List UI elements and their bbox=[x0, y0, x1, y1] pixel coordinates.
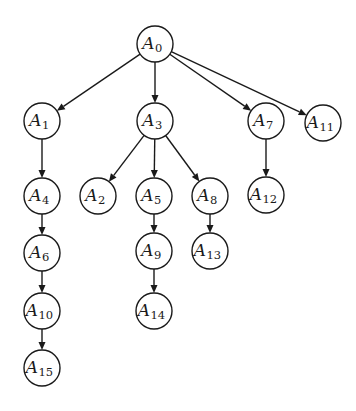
node-label: A bbox=[305, 112, 319, 132]
arrowhead-icon bbox=[263, 169, 270, 177]
node-subscript: 2 bbox=[98, 193, 105, 207]
node-label: A bbox=[27, 185, 41, 205]
edge-line bbox=[171, 52, 299, 112]
node-subscript: 14 bbox=[151, 308, 166, 322]
edge-A9-A14 bbox=[151, 269, 158, 293]
edge-line bbox=[63, 54, 140, 106]
node-A4: A4 bbox=[24, 178, 60, 214]
node-subscript: 9 bbox=[154, 248, 161, 262]
node-subscript: 4 bbox=[42, 193, 49, 207]
node-label: A bbox=[248, 184, 262, 204]
arrowhead-icon bbox=[207, 225, 214, 233]
node-subscript: 10 bbox=[39, 308, 54, 322]
edge-A0-A11 bbox=[171, 52, 306, 116]
arrowhead-icon bbox=[57, 103, 66, 110]
node-label: A bbox=[140, 110, 154, 130]
node-label: A bbox=[140, 33, 154, 53]
arrowhead-icon bbox=[39, 285, 46, 293]
arrowhead-icon bbox=[152, 95, 159, 103]
edge-A3-A2 bbox=[109, 135, 144, 181]
node-subscript: 6 bbox=[42, 250, 49, 264]
node-subscript: 13 bbox=[207, 248, 222, 262]
node-label: A bbox=[139, 185, 153, 205]
edge-A3-A5 bbox=[151, 139, 158, 178]
node-label: A bbox=[251, 110, 265, 130]
node-label: A bbox=[192, 240, 206, 260]
node-label: A bbox=[27, 110, 41, 130]
node-label: A bbox=[24, 357, 38, 377]
arrowhead-icon bbox=[151, 285, 158, 293]
node-subscript: 12 bbox=[263, 192, 278, 206]
edge-A3-A8 bbox=[166, 136, 200, 182]
node-subscript: 11 bbox=[320, 120, 335, 134]
node-A5: A5 bbox=[136, 178, 172, 214]
node-subscript: 1 bbox=[42, 118, 49, 132]
node-label: A bbox=[24, 300, 38, 320]
node-label: A bbox=[27, 242, 41, 262]
node-A7: A7 bbox=[248, 103, 284, 139]
node-label: A bbox=[136, 300, 150, 320]
edge-A10-A15 bbox=[39, 329, 46, 350]
node-subscript: 3 bbox=[155, 118, 162, 132]
edge-A0-A7 bbox=[170, 54, 251, 110]
arrowhead-icon bbox=[39, 342, 46, 350]
edge-line bbox=[166, 136, 195, 176]
arrowhead-icon bbox=[243, 103, 252, 110]
edge-A0-A1 bbox=[57, 54, 140, 111]
node-A6: A6 bbox=[24, 235, 60, 271]
node-label: A bbox=[195, 185, 209, 205]
edge-A0-A3 bbox=[152, 62, 159, 103]
node-A13: A13 bbox=[192, 233, 228, 269]
edge-A4-A6 bbox=[39, 214, 46, 235]
edge-A8-A13 bbox=[207, 214, 214, 233]
node-A0: A0 bbox=[137, 26, 173, 62]
nodes-layer: A0A1A3A7A11A4A2A5A8A12A6A9A13A10A14A15 bbox=[24, 26, 341, 386]
node-A2: A2 bbox=[80, 178, 116, 214]
node-subscript: 7 bbox=[266, 118, 273, 132]
node-A9: A9 bbox=[136, 233, 172, 269]
edge-A7-A12 bbox=[263, 139, 270, 177]
arrowhead-icon bbox=[192, 173, 200, 182]
node-A8: A8 bbox=[192, 178, 228, 214]
edge-line bbox=[114, 135, 144, 175]
node-label: A bbox=[139, 240, 153, 260]
node-A11: A11 bbox=[305, 105, 341, 141]
arrowhead-icon bbox=[39, 170, 46, 178]
tree-diagram: A0A1A3A7A11A4A2A5A8A12A6A9A13A10A14A15 bbox=[0, 0, 356, 411]
node-subscript: 0 bbox=[155, 41, 162, 55]
node-A12: A12 bbox=[248, 177, 284, 213]
node-A10: A10 bbox=[24, 293, 60, 329]
node-subscript: 5 bbox=[154, 193, 161, 207]
arrowhead-icon bbox=[109, 173, 117, 181]
node-A3: A3 bbox=[137, 103, 173, 139]
edge-A5-A9 bbox=[151, 214, 158, 233]
node-subscript: 8 bbox=[210, 193, 217, 207]
node-A1: A1 bbox=[24, 103, 60, 139]
arrowhead-icon bbox=[151, 225, 158, 233]
node-A14: A14 bbox=[136, 293, 172, 329]
edge-A6-A10 bbox=[39, 271, 46, 293]
node-subscript: 15 bbox=[39, 365, 54, 379]
arrowhead-icon bbox=[39, 227, 46, 235]
edge-A1-A4 bbox=[39, 139, 46, 178]
node-label: A bbox=[83, 185, 97, 205]
arrowhead-icon bbox=[151, 170, 158, 178]
node-A15: A15 bbox=[24, 350, 60, 386]
